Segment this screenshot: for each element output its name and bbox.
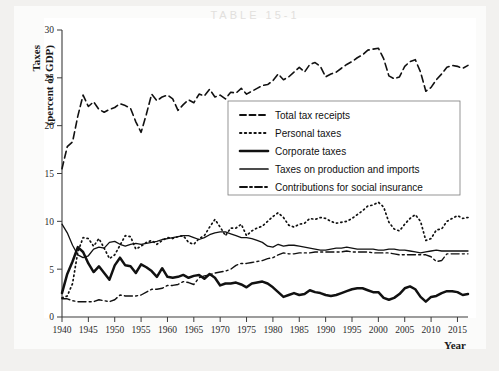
legend-item-label: Taxes on production and imports	[275, 164, 420, 175]
x-tick-label: 1950	[105, 325, 124, 335]
y-axis-title-line1: Taxes	[30, 44, 42, 71]
y-tick-label: 0	[49, 312, 54, 322]
series-line	[62, 224, 468, 257]
x-tick-label: 1985	[290, 325, 309, 335]
x-tick-label: 1975	[237, 325, 256, 335]
y-tick-label: 25	[45, 73, 55, 83]
legend-item-label: Contributions for social insurance	[275, 182, 423, 193]
x-tick-label: 1990	[316, 325, 335, 335]
x-tick-label: 2000	[369, 325, 388, 335]
x-tick-label: 2005	[395, 325, 414, 335]
y-axis-title-line2: (percent of GDP)	[43, 45, 56, 126]
x-tick-label: 1970	[211, 325, 230, 335]
series-line	[62, 251, 468, 302]
legend-item-label: Corporate taxes	[275, 146, 346, 157]
y-tick-label: 30	[45, 25, 55, 35]
x-axis-title: Year	[444, 339, 466, 351]
x-tick-label: 1960	[158, 325, 177, 335]
x-tick-label: 1940	[53, 325, 72, 335]
legend-item-label: Personal taxes	[275, 128, 341, 139]
x-tick-label: 1945	[79, 325, 98, 335]
x-tick-label: 2010	[422, 325, 441, 335]
y-axis-title: Taxes (percent of GDP)	[30, 44, 56, 125]
taxes-percent-of-gdp-chart: Taxes (percent of GDP) Year 051015202530…	[0, 0, 499, 371]
x-tick-label: 1980	[263, 325, 282, 335]
x-tick-label: 1965	[184, 325, 203, 335]
y-tick-label: 20	[45, 121, 55, 131]
x-tick-label: 2015	[448, 325, 467, 335]
chart-legend: Total tax receiptsPersonal taxesCorporat…	[228, 101, 460, 195]
y-tick-label: 5	[49, 265, 54, 275]
x-tick-label: 1955	[132, 325, 151, 335]
x-axis-ticks: 1940194519501955196019651970197519801985…	[53, 317, 468, 335]
chart-page: TABLE 15-1 Taxes (percent of GDP) Year 0…	[0, 0, 499, 371]
y-tick-label: 15	[45, 169, 55, 179]
x-tick-label: 1995	[343, 325, 362, 335]
legend-item-label: Total tax receipts	[275, 110, 350, 121]
y-tick-label: 10	[45, 217, 55, 227]
